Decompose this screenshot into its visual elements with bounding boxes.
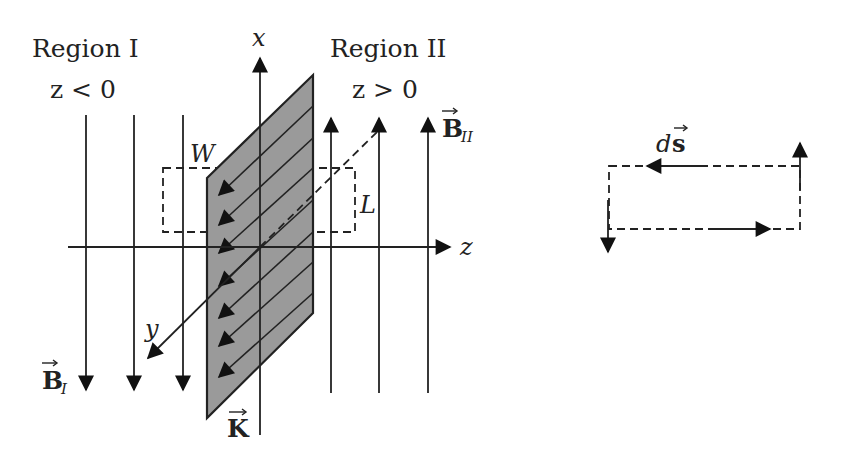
region-1-label: Region I xyxy=(32,34,139,63)
loop-length-label: L xyxy=(359,191,376,219)
b2-label: B II xyxy=(442,108,474,146)
loop-detail-path xyxy=(609,166,800,229)
svg-text:II: II xyxy=(460,128,474,146)
region-2-condition: z > 0 xyxy=(352,75,418,104)
loop-width-label: W xyxy=(190,140,217,168)
region-1-condition: z < 0 xyxy=(50,75,116,104)
z-axis-label: z xyxy=(459,233,473,261)
region-1-field-lines xyxy=(86,115,183,390)
current-sheet-diagram: Region I z < 0 Region II z > 0 x z y W L xyxy=(0,0,845,453)
svg-text:B: B xyxy=(42,366,63,395)
y-axis-label: y xyxy=(144,315,159,343)
region-2-field-lines xyxy=(331,118,428,393)
x-axis-label: x xyxy=(252,24,266,52)
ds-label-s: s xyxy=(672,129,686,158)
svg-text:I: I xyxy=(60,380,68,398)
region-2-label: Region II xyxy=(330,34,446,63)
svg-text:K: K xyxy=(227,414,250,443)
b1-label: B I xyxy=(42,360,68,398)
k-label: K xyxy=(227,409,250,443)
svg-text:B: B xyxy=(442,114,463,143)
ds-label-d: d xyxy=(656,130,671,158)
loop-detail: d s xyxy=(608,125,800,252)
